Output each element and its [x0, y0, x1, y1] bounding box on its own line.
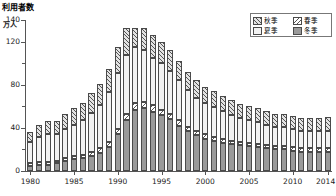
bar-segment-summer — [255, 122, 261, 144]
bar-1989 — [106, 69, 112, 171]
bar-segment-spring — [237, 142, 243, 145]
bar-segment-winter — [202, 139, 208, 171]
bar-segment-spring — [45, 162, 51, 164]
bar-segment-winter — [150, 112, 156, 171]
bar-segment-summer — [71, 125, 77, 156]
x-tick-label: 1990 — [108, 177, 127, 186]
x-tick — [205, 171, 206, 175]
legend-item-spring: 春季 — [293, 16, 318, 25]
bar-segment-winter — [27, 166, 33, 171]
legend-item-autumn: 秋季 — [253, 16, 278, 25]
bar-segment-spring — [106, 142, 112, 147]
bar-2005 — [246, 106, 252, 171]
bar-segment-autumn — [263, 111, 269, 125]
bar-segment-summer — [307, 131, 313, 148]
legend-item-summer: 夏季 — [253, 26, 278, 35]
bar-segment-summer — [325, 131, 331, 148]
bar-segment-autumn — [325, 117, 331, 131]
plot-area — [26, 20, 332, 171]
bar-segment-summer — [158, 63, 164, 109]
bar-segment-autumn — [290, 116, 296, 129]
x-axis-line — [25, 171, 332, 172]
y-tick-label: 40 — [10, 124, 20, 132]
bar-segment-summer — [106, 92, 112, 142]
bar-segment-spring — [281, 146, 287, 149]
bar-segment-spring — [158, 110, 164, 115]
bar-segment-summer — [281, 127, 287, 146]
bar-2013 — [316, 118, 322, 171]
bar-1986 — [80, 103, 86, 171]
bar-segment-summer — [123, 55, 129, 114]
bar-segment-summer — [45, 134, 51, 162]
bar-segment-autumn — [62, 114, 68, 129]
bar-segment-summer — [150, 58, 156, 105]
x-tick — [293, 171, 294, 175]
bar-segment-autumn — [220, 96, 226, 111]
bar-segment-summer — [62, 129, 68, 158]
bar-segment-winter — [132, 110, 138, 171]
bar-1993 — [141, 28, 147, 171]
y-tick-label: 80 — [10, 81, 20, 89]
bar-segment-summer — [290, 129, 296, 147]
bar-segment-autumn — [211, 91, 217, 107]
bar-2004 — [237, 104, 243, 171]
bar-segment-autumn — [71, 108, 77, 124]
bar-segment-winter — [298, 152, 304, 171]
bar-1982 — [45, 121, 51, 171]
bar-2010 — [290, 116, 296, 171]
bar-segment-summer — [167, 71, 173, 114]
y-tick-label: 0 — [15, 167, 20, 175]
x-tick-label: 2005 — [239, 177, 258, 186]
bar-1991 — [123, 28, 129, 171]
chart-title: 利用者数 — [2, 1, 34, 12]
bar-segment-winter — [115, 134, 121, 171]
bar-segment-winter — [45, 165, 51, 171]
bar-2001 — [211, 91, 217, 171]
bar-segment-autumn — [141, 28, 147, 51]
bar-segment-summer — [132, 47, 138, 103]
bar-segment-spring — [115, 129, 121, 134]
bar-segment-spring — [220, 139, 226, 143]
bar-segment-autumn — [272, 114, 278, 127]
bar-segment-winter — [246, 146, 252, 171]
x-tick-label-last: 2014 — [316, 177, 335, 186]
bar-segment-winter — [255, 147, 261, 171]
bar-segment-spring — [246, 143, 252, 146]
bar-segment-autumn — [97, 84, 103, 106]
bar-segment-autumn — [27, 132, 33, 142]
bar-segment-summer — [202, 103, 208, 134]
bar-segment-summer — [27, 142, 33, 164]
bar-segment-summer — [115, 73, 121, 129]
bar-segment-winter — [237, 145, 243, 171]
bar-segment-winter — [62, 161, 68, 171]
bar-segment-autumn — [228, 100, 234, 115]
bar-segment-summer — [185, 90, 191, 127]
bar-2009 — [281, 114, 287, 171]
bar-segment-winter — [158, 115, 164, 171]
bar-segment-autumn — [123, 28, 129, 55]
bar-segment-winter — [325, 152, 331, 171]
bar-segment-winter — [80, 158, 86, 171]
bar-segment-spring — [272, 146, 278, 149]
bar-segment-summer — [263, 125, 269, 145]
bar-segment-autumn — [255, 108, 261, 122]
bar-segment-autumn — [106, 69, 112, 93]
bar-segment-summer — [97, 105, 103, 148]
x-tick — [162, 171, 163, 175]
bar-segment-winter — [263, 148, 269, 171]
bar-segment-spring — [228, 141, 234, 144]
bar-segment-autumn — [158, 42, 164, 64]
bar-2002 — [220, 96, 226, 172]
x-tick-label: 2010 — [283, 177, 302, 186]
bar-segment-summer — [193, 98, 199, 131]
bar-segment-winter — [281, 149, 287, 171]
bar-1997 — [176, 61, 182, 171]
bar-segment-spring — [71, 156, 77, 159]
bar-segment-spring — [176, 120, 182, 125]
legend-label-summer: 夏季 — [264, 27, 278, 35]
bar-segment-spring — [36, 162, 42, 164]
bar-segment-autumn — [132, 28, 138, 47]
bar-segment-summer — [272, 127, 278, 146]
bar-segment-autumn — [54, 121, 60, 134]
bar-segment-autumn — [316, 118, 322, 131]
